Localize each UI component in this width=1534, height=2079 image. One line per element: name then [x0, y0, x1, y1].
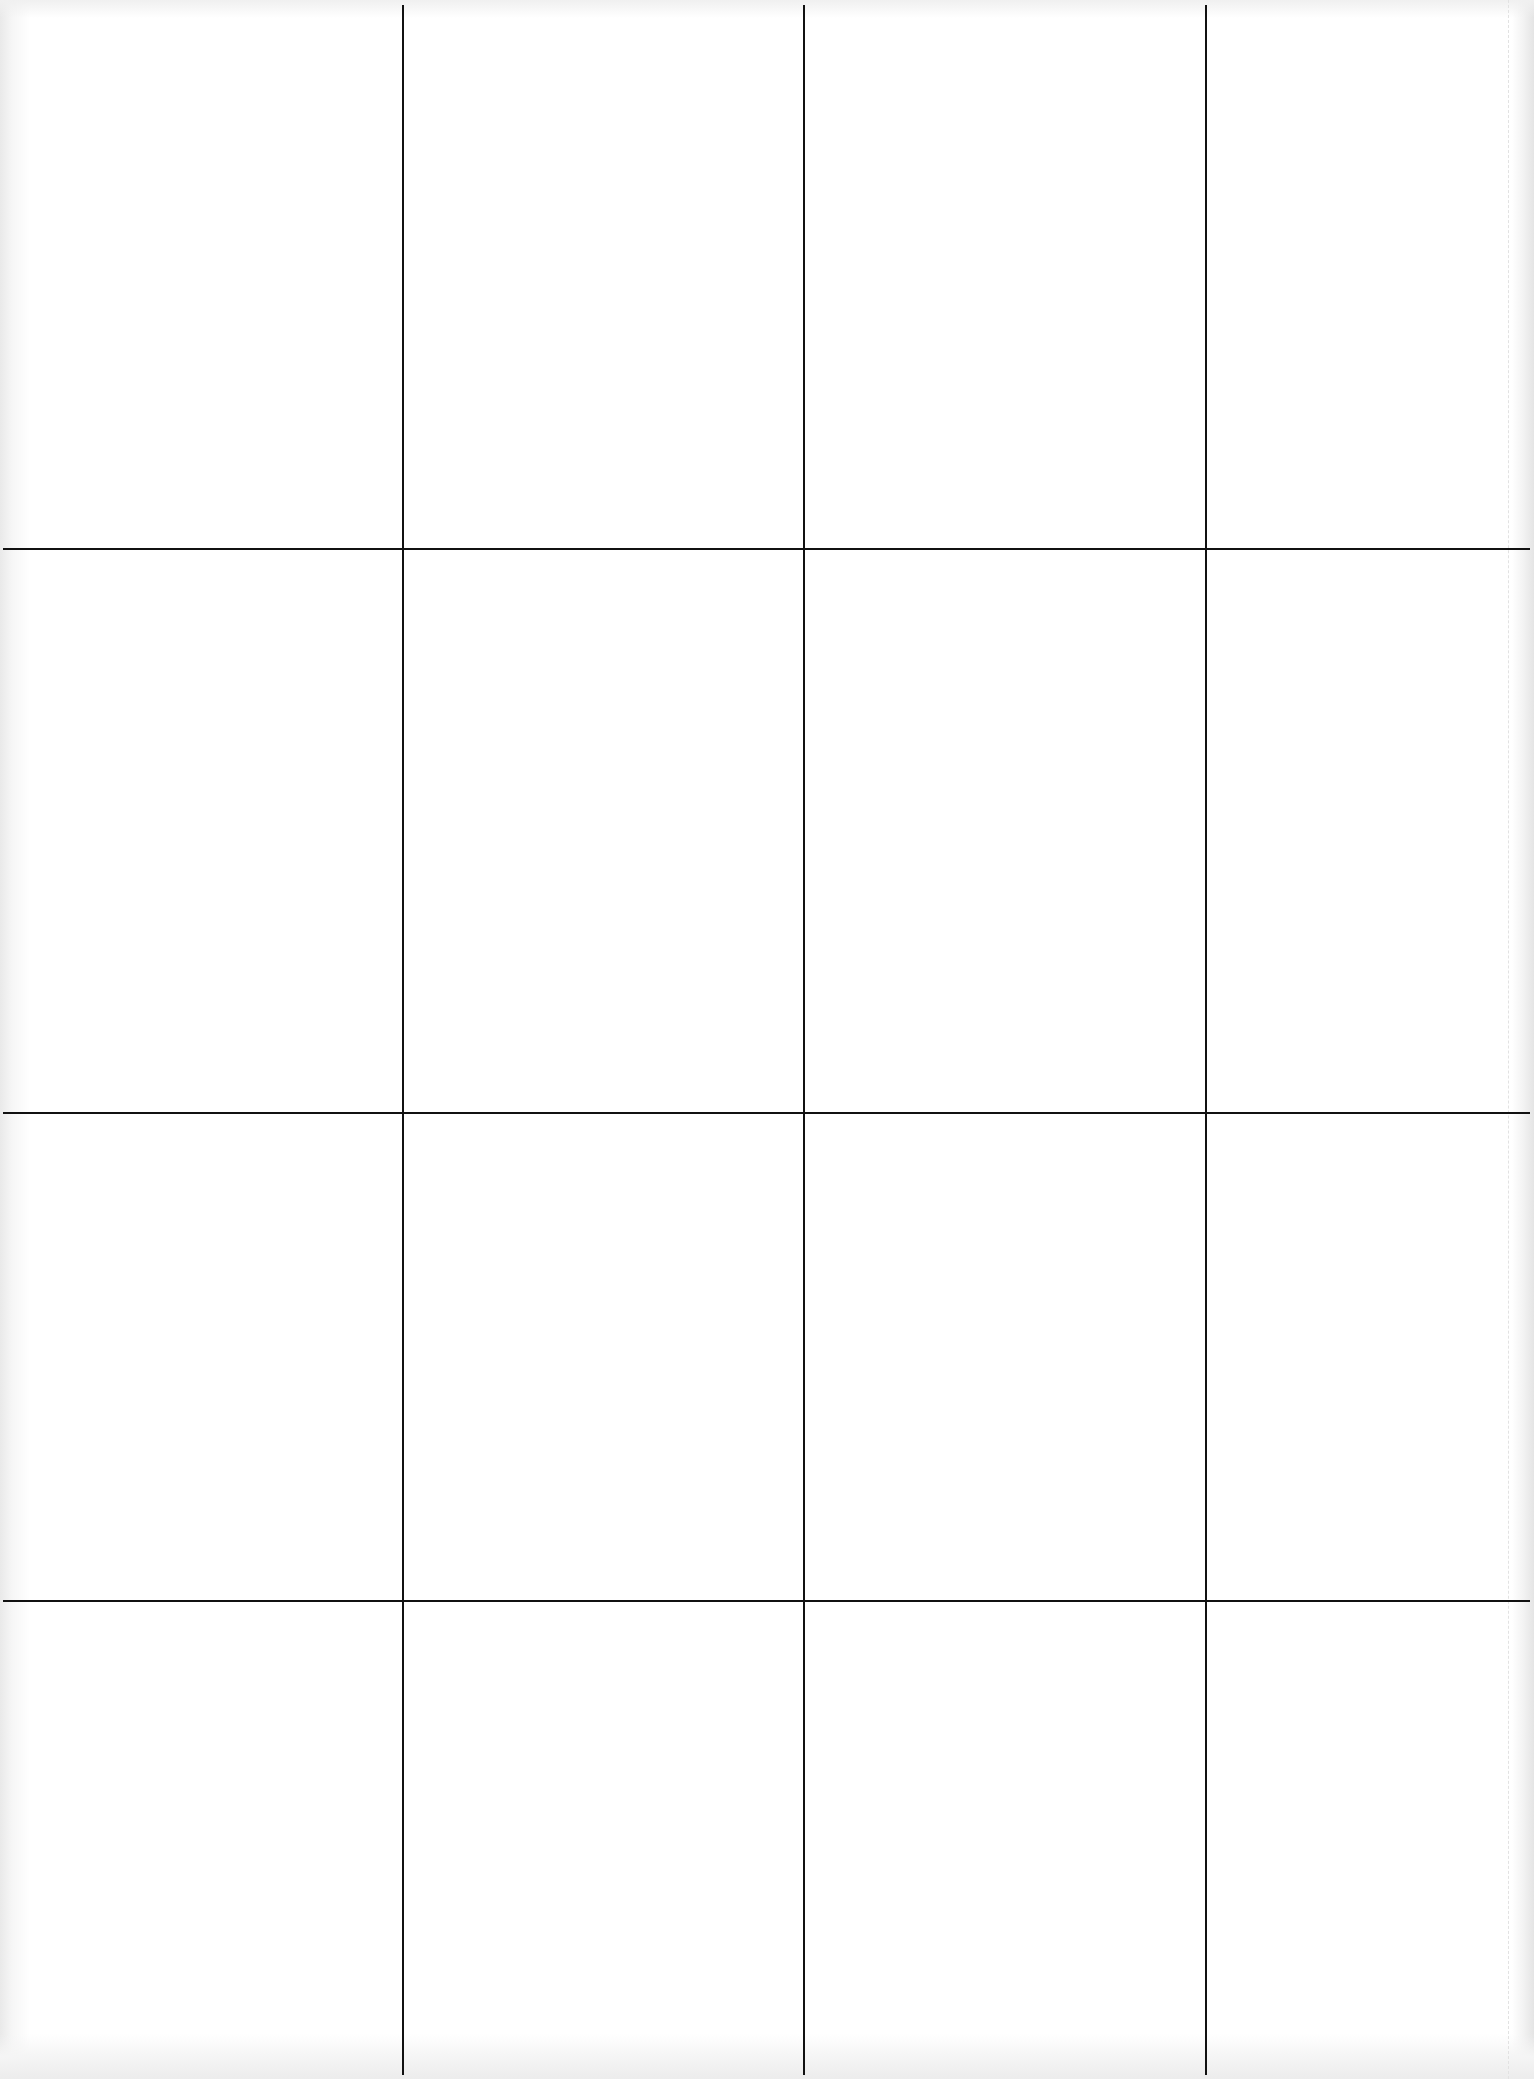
grid-cell-r1-c2 [403, 0, 804, 549]
grid-cell-r3-c4 [1206, 1113, 1534, 1601]
grid-cell-r3-c3 [804, 1113, 1206, 1601]
grid-cell-r1-c4 [1206, 0, 1534, 549]
grid-cell-r3-c1 [0, 1113, 403, 1601]
grid-cell-r4-c1 [0, 1601, 403, 2079]
grid-cell-r4-c3 [804, 1601, 1206, 2079]
grid-cell-r1-c3 [804, 0, 1206, 549]
grid-cell-r1-c1 [0, 0, 403, 549]
grid-cell-r2-c3 [804, 549, 1206, 1113]
grid-cell-r2-c1 [0, 549, 403, 1113]
grid-cell-r2-c2 [403, 549, 804, 1113]
grid-cell-r4-c4 [1206, 1601, 1534, 2079]
grid-cell-r3-c2 [403, 1113, 804, 1601]
grid-cell-r4-c2 [403, 1601, 804, 2079]
grid-page [0, 0, 1534, 2079]
grid-cell-r2-c4 [1206, 549, 1534, 1113]
